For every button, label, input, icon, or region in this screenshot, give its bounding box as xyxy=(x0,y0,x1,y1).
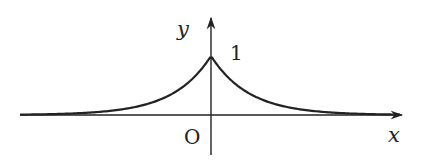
curve-exp-neg-abs-x xyxy=(20,58,400,115)
origin-label: O xyxy=(184,125,200,149)
peak-value-label: 1 xyxy=(230,41,243,65)
y-axis-label: y xyxy=(176,17,190,41)
x-axis-label: x xyxy=(388,123,400,147)
graph-canvas: y 1 O x xyxy=(0,0,432,166)
